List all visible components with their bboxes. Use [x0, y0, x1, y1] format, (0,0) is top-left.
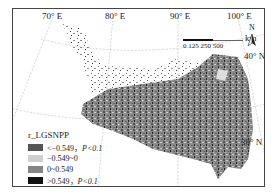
legend-p: P<0.1 — [82, 144, 102, 153]
north-label: N — [245, 23, 259, 32]
legend-swatch — [28, 177, 43, 184]
lat-label-40: 40° N — [244, 51, 265, 61]
legend-swatch — [28, 166, 43, 173]
lon-label-100: 100° E — [227, 11, 252, 21]
map-frame: 70° E 80° E 90° E 100° E 40° N 30° N km … — [12, 8, 265, 187]
scale-ticks: 0 125 250 500 — [183, 42, 223, 50]
legend-item: <−0.549，P<0.1 — [28, 142, 102, 153]
legend: r_LGSNPP <−0.549，P<0.1 −0.549~0 0~0.549 … — [28, 130, 102, 186]
lon-label-70: 70° E — [42, 11, 62, 21]
legend-p: P<0.1 — [78, 177, 98, 186]
legend-item: 0~0.549 — [28, 164, 102, 175]
legend-label: −0.549~0 — [47, 154, 78, 163]
legend-swatch — [28, 155, 43, 162]
legend-item: >0.549，P<0.1 — [28, 175, 102, 186]
sparse-region — [63, 24, 103, 67]
north-arrow-icon — [247, 34, 257, 46]
lon-label-90: 90° E — [170, 11, 190, 21]
legend-item: −0.549~0 — [28, 153, 102, 164]
legend-label: >0.549， — [47, 177, 78, 186]
legend-label: <−0.549， — [47, 144, 82, 153]
north-arrow: N — [245, 23, 259, 50]
legend-swatch — [28, 144, 43, 151]
legend-title: r_LGSNPP — [28, 130, 102, 140]
legend-label: 0~0.549 — [47, 165, 73, 174]
lon-label-80: 80° E — [105, 11, 125, 21]
lat-label-30: 30° N — [241, 137, 262, 147]
